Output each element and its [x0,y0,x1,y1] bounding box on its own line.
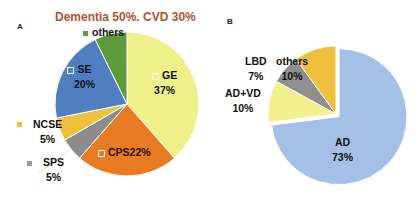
label-se: SE20% [74,62,95,92]
label-others-b: others10% [276,54,308,84]
label-ncse: NCSE5% [33,117,62,147]
cps-marker-icon [98,150,105,157]
label-ge: GE37% [152,68,177,98]
others-marker-icon [83,31,88,36]
label-sps: SPS5% [43,155,64,185]
ge-marker-icon [152,73,159,80]
label-ad: AD73% [332,135,353,165]
ncse-marker-icon [17,122,22,127]
se-marker-icon [67,67,74,74]
label-ad-vd: AD+VD10% [225,86,261,116]
sps-marker-icon [27,161,32,166]
label-lbd: LBD7% [245,54,267,84]
legend-others-a: others [83,25,124,40]
label-cps: CPS22% [98,145,151,160]
